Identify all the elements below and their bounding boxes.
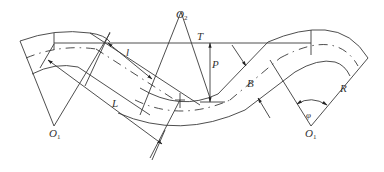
left-bend (20, 32, 110, 74)
label-o1-left: O1 (49, 127, 61, 141)
label-L: L (111, 97, 118, 109)
phi-angle-arc (297, 100, 327, 105)
b-arrow-top (232, 45, 246, 66)
label-t: T (197, 30, 204, 42)
label-b: B (247, 77, 254, 89)
label-r: R (339, 82, 347, 94)
right-bend (268, 30, 368, 126)
b-arrow-bottom (258, 98, 270, 118)
label-p: P (211, 58, 219, 70)
label-l: l (126, 46, 129, 58)
label-phi: φ (306, 110, 311, 120)
l-extension (85, 32, 110, 86)
label-o1-right: O1 (305, 127, 317, 141)
L-extension (152, 130, 165, 160)
straight-reach-left (78, 33, 200, 115)
meander-diagram: O2 T P B l L R φ O1 O1 (0, 0, 384, 172)
middle-bend (118, 12, 245, 158)
label-o2: O2 (176, 8, 188, 22)
straight-reach-right (218, 42, 295, 110)
